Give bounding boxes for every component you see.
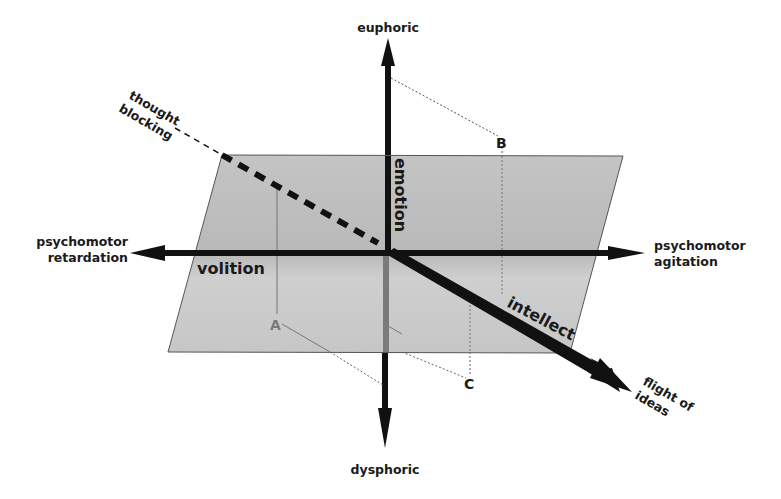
volition-axis-label: volition (197, 259, 265, 278)
point-a-label: A (270, 317, 281, 333)
guide-lines-below (330, 352, 470, 385)
mental-state-3d-diagram: emotion volition intellect euphoric dysp… (0, 0, 781, 499)
psychomotor-agitation-label-line2: agitation (654, 254, 718, 269)
point-c-label: C (464, 376, 474, 392)
dysphoric-label: dysphoric (351, 462, 420, 477)
point-b-label: B (496, 135, 507, 151)
thought-blocking-axis-outer (175, 128, 222, 155)
emotion-axis-label: emotion (391, 158, 410, 232)
guide-lines-above (391, 78, 502, 156)
psychomotor-retardation-label-line2: retardation (48, 250, 128, 265)
euphoric-label: euphoric (357, 20, 419, 35)
emotion-axis-upper (381, 38, 395, 156)
emotion-axis-lower (378, 352, 392, 448)
psychomotor-agitation-label-line1: psychomotor (654, 238, 747, 253)
psychomotor-retardation-label-line1: psychomotor (36, 234, 129, 249)
